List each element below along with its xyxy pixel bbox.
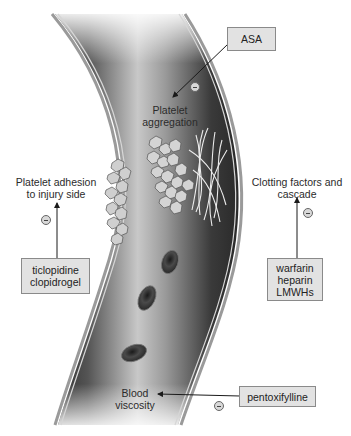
platelet-aggregation-label: Platelet aggregation bbox=[138, 104, 202, 128]
drug-name: pentoxifylline bbox=[247, 391, 308, 403]
label-line: cascade bbox=[247, 188, 347, 200]
inhibition-minus-icon bbox=[303, 208, 313, 218]
inhibition-minus-icon bbox=[190, 82, 200, 92]
platelet-adhesion-label: Platelet adhesion to injury side bbox=[8, 176, 104, 200]
pentoxifylline-box: pentoxifylline bbox=[239, 386, 316, 407]
drug-name: LMWHs bbox=[276, 286, 313, 298]
label-line: Blood bbox=[110, 387, 160, 399]
label-line: Clotting factors and bbox=[247, 176, 347, 188]
anticoagulant-box: warfarin heparin LMWHs bbox=[267, 258, 323, 301]
label-line: aggregation bbox=[138, 116, 202, 128]
label-line: Platelet adhesion bbox=[8, 176, 104, 188]
drug-name: ASA bbox=[241, 33, 262, 45]
drug-name: ticlopidine bbox=[32, 264, 79, 276]
label-line: viscosity bbox=[110, 399, 160, 411]
drug-name: clopidrogel bbox=[30, 276, 81, 288]
blood-viscosity-label: Blood viscosity bbox=[110, 387, 160, 411]
drug-name: warfarin bbox=[276, 262, 313, 274]
asa-box: ASA bbox=[227, 27, 276, 51]
clotting-factors-label: Clotting factors and cascade bbox=[247, 176, 347, 200]
drug-name: heparin bbox=[277, 274, 312, 286]
ticlopidine-box: ticlopidine clopidrogel bbox=[21, 258, 90, 294]
inhibition-minus-icon bbox=[214, 401, 224, 411]
label-line: Platelet bbox=[138, 104, 202, 116]
blood-vessel-illustration bbox=[0, 0, 351, 436]
antithrombotic-mechanism-diagram: Platelet aggregation Platelet adhesion t… bbox=[0, 0, 351, 436]
inhibition-minus-icon bbox=[41, 215, 51, 225]
label-line: to injury side bbox=[8, 188, 104, 200]
